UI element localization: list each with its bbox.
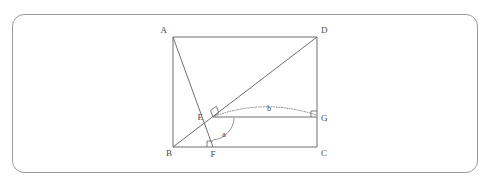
geometry-diagram: A B C D E F G a b [0, 0, 490, 187]
angle-label-a: a [222, 129, 226, 139]
figure-screenshot: A B C D E F G a b [0, 0, 490, 187]
diagonal-BD-line [173, 37, 317, 147]
angle-label-b: b [267, 103, 271, 113]
vertex-label-G: G [321, 113, 328, 123]
vertex-label-F: F [210, 149, 215, 159]
vertex-label-E: E [198, 112, 204, 122]
line-AF [173, 37, 213, 147]
vertex-label-A: A [161, 25, 168, 35]
vertex-label-D: D [321, 25, 328, 35]
vertex-label-B: B [166, 148, 172, 158]
vertex-label-C: C [321, 148, 327, 158]
angle-arc-b [215, 107, 316, 116]
